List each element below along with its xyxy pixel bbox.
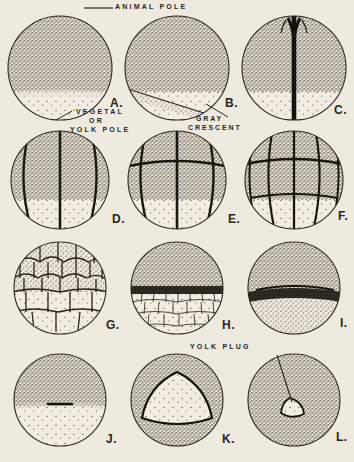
panel-letter-F: F. <box>338 209 348 223</box>
panel-letter-G: G. <box>106 318 120 332</box>
callout-vegetal-pole-line3: YOLK POLE <box>70 126 130 133</box>
panel-letter-J: J. <box>106 432 117 446</box>
panel-letter-K: K. <box>222 432 235 446</box>
panel-letter-I: I. <box>340 316 348 330</box>
plate-illustration <box>0 0 354 462</box>
panel-letter-E: E. <box>228 212 240 226</box>
panel-letter-L: L. <box>336 430 348 444</box>
embryo-development-plate: ANIMAL POLE VEGETAL OR YOLK POLE GRAY CR… <box>0 0 354 462</box>
callout-animal-pole: ANIMAL POLE <box>115 3 187 10</box>
panel-letter-A: A. <box>110 96 123 110</box>
callout-yolk-plug: YOLK PLUG <box>190 343 251 350</box>
panel-letter-D: D. <box>112 212 125 226</box>
panel-letter-C: C. <box>334 103 347 117</box>
callout-vegetal-pole-line2: OR <box>89 117 104 124</box>
callout-gray-crescent-line1: GRAY <box>196 115 223 122</box>
panel-letter-H: H. <box>222 318 235 332</box>
callout-gray-crescent-line2: CRESCENT <box>188 124 242 131</box>
panel-letter-B: B. <box>225 96 238 110</box>
